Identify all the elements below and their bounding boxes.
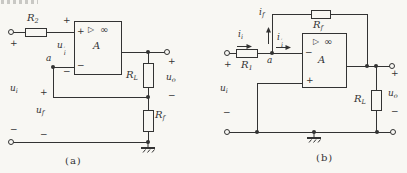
opamp-a-noninv-sign: + (77, 27, 85, 36)
output-plus-sign-a: + (168, 57, 176, 66)
cropped-text-fragment (1, 0, 38, 4)
node-b-feedback (365, 64, 369, 68)
wire-b-noninv-down (257, 83, 258, 132)
node-b-load-bottom (375, 130, 379, 134)
resistor-rl-a-label: RL (126, 70, 138, 82)
node-label-b: a (267, 56, 272, 65)
ground-icon-a (139, 142, 157, 153)
terminal-b-input-top (224, 50, 230, 56)
resistor-rl-b (371, 90, 382, 111)
input-minus-sign-b: − (223, 108, 231, 117)
terminal-a-input-bottom (8, 139, 14, 145)
current-iiprime-label: i′i (277, 33, 283, 48)
opamp-b-triangle-icon: ▷ (313, 38, 319, 46)
terminal-a-input-top (8, 29, 14, 35)
wire-b-output (346, 66, 392, 67)
caption-a: (a) (65, 156, 82, 166)
resistor-r2 (25, 28, 47, 37)
uf-label: uf (36, 106, 44, 117)
node-b-output (374, 64, 378, 68)
wire-b-feedback-down (367, 14, 368, 66)
wire-a-node-down (53, 67, 54, 97)
uf-minus-sign: − (40, 130, 48, 139)
output-minus-sign-a: − (168, 91, 176, 100)
uiprime-label: u′i (57, 41, 66, 56)
output-minus-sign-b: − (391, 107, 399, 116)
wire-b-noninv-input (257, 83, 302, 84)
terminal-b-input-bottom (224, 129, 230, 135)
current-if-label: if (259, 8, 264, 19)
current-ii-arrow-icon (237, 43, 252, 50)
uo-label-b: uo (388, 89, 398, 100)
resistor-r1 (236, 49, 258, 58)
schematic-figure: R2 + + u′i − + ▷ ∞ A − a ui + uf − − + u… (0, 0, 407, 173)
node-a-output (146, 50, 150, 54)
input-plus-sign-a: + (10, 39, 18, 48)
opamp-a-inv-sign: − (77, 61, 85, 70)
resistor-rf-b (311, 10, 331, 19)
opamp-b-name: A (318, 55, 325, 65)
ui-label-b: ui (220, 84, 228, 95)
wire-a-bottom (11, 142, 148, 143)
uf-plus-sign: + (40, 88, 48, 97)
uo-label-a: uo (166, 73, 176, 84)
output-plus-sign-b: + (391, 69, 399, 78)
input-plus-sign-b: + (224, 60, 232, 69)
resistor-r1-label: R1 (241, 60, 253, 72)
resistor-r2-label: R2 (27, 13, 39, 25)
resistor-rf-b-label: Rf (313, 20, 323, 32)
ui-label-a: ui (10, 84, 18, 95)
terminal-b-output-bottom (390, 129, 396, 135)
current-ii-label: ii (238, 30, 243, 41)
wire-a-output (121, 52, 167, 53)
node-label-a: a (46, 54, 51, 63)
input-minus-sign-a: − (10, 125, 18, 134)
node-b-noninv-ground (255, 130, 259, 134)
uiprime-minus-sign: − (63, 67, 71, 76)
resistor-rl-a (143, 63, 154, 88)
node-a-a (51, 65, 55, 69)
resistor-rf-a-label: Rf (155, 110, 165, 122)
current-if-arrow-icon (265, 27, 272, 44)
resistor-rf-a (143, 110, 154, 132)
terminal-a-output (164, 49, 170, 55)
wire-a-feedback (53, 97, 148, 98)
uiprime-plus-sign: + (63, 16, 71, 25)
caption-b: (b) (316, 153, 333, 163)
resistor-rl-b-label: RL (354, 94, 366, 106)
wire-b-feedback-up (272, 14, 273, 53)
ground-icon-b (305, 132, 323, 143)
opamp-a-name: A (93, 41, 100, 51)
opamp-b-infinity-icon: ∞ (324, 37, 332, 47)
opamp-a-triangle-icon: ▷ (88, 26, 94, 34)
opamp-b-noninv-sign: + (306, 76, 314, 85)
opamp-a-infinity-icon: ∞ (100, 25, 108, 35)
opamp-b-inv-sign: − (305, 48, 313, 57)
node-a-feedback (146, 95, 150, 99)
